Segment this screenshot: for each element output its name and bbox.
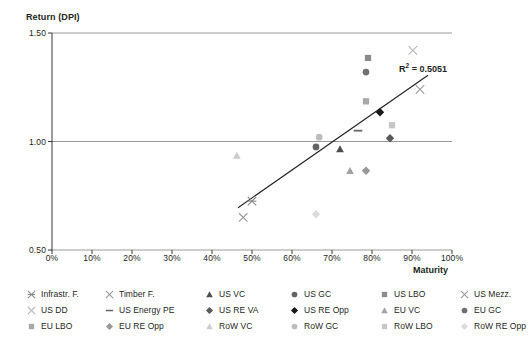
legend-marker-square-icon [379,289,390,300]
data-point-row-lbo [389,122,395,128]
r-squared-annotation: R2 = 0.5051 [399,64,447,74]
legend-item-eu-lbo[interactable]: EU LBO [26,321,104,332]
legend-item-row-gc[interactable]: RoW GC [289,321,379,332]
legend-item-us-re-va[interactable]: US RE VA [204,305,289,316]
legend-item-eu-vc[interactable]: EU VC [379,305,459,316]
data-point-us-vc [336,145,344,152]
legend-label: Timber F. [119,289,155,299]
legend-marker-diamond-icon [204,305,215,316]
legend-label: US GC [304,289,331,299]
legend-label: US VC [219,289,245,299]
legend-label: EU RE Opp [119,321,164,331]
legend-marker-diamond-icon [104,321,115,332]
legend-item-us-vc[interactable]: US VC [204,289,289,300]
legend-item-row-lbo[interactable]: RoW LBO [379,321,459,332]
legend-item-us-mezz[interactable]: US Mezz. [459,289,531,300]
legend-item-us-lbo[interactable]: US LBO [379,289,459,300]
data-point-row-vc [233,152,241,159]
data-point-us-gc [313,144,320,151]
data-point-eu-gc [363,69,370,76]
data-point-us-re-opp [376,108,384,116]
data-point-us-energy-pe [354,130,363,132]
legend-marker-square-icon [379,321,390,332]
legend-label: RoW GC [304,321,338,331]
legend-label: RoW RE Opp [474,321,526,331]
legend-label: Infrastr. F. [41,289,79,299]
legend-label: US LBO [394,289,425,299]
data-point-us-mezz [416,85,424,93]
legend-marker-triangle-icon [204,289,215,300]
legend-marker-triangle-icon [379,305,390,316]
data-point-eu-vc [346,167,354,174]
legend-label: EU VC [394,305,420,315]
legend-item-us-energy-pe[interactable]: US Energy PE [104,305,204,316]
legend-label: US Mezz. [474,289,511,299]
legend-marker-x-icon [104,289,115,300]
legend-marker-dash-icon [104,305,115,316]
legend-label: US Energy PE [119,305,174,315]
legend-marker-asterisk-icon [26,289,37,300]
legend-label: EU LBO [41,321,72,331]
legend-item-row-vc[interactable]: RoW VC [204,321,289,332]
legend-item-row-re-opp[interactable]: RoW RE Opp [459,321,531,332]
legend-marker-x-icon [459,289,470,300]
data-point-eu-lbo [363,98,369,104]
legend-label: US RE Opp [304,305,349,315]
r-squared-value: = 0.5051 [409,64,447,74]
legend-label: EU GC [474,305,501,315]
data-point-row-re-opp [312,210,320,218]
chart-legend: Infrastr. F.Timber F.US VCUS GCUS LBOUS … [26,286,496,334]
legend-marker-triangle-icon [204,321,215,332]
legend-marker-diamond-icon [459,321,470,332]
legend-item-us-re-opp[interactable]: US RE Opp [289,305,379,316]
legend-marker-circle-icon [459,305,470,316]
legend-marker-x-icon [26,305,37,316]
data-point-timber-f [239,213,247,221]
legend-item-us-dd[interactable]: US DD [26,305,104,316]
legend-marker-circle-icon [289,321,300,332]
legend-marker-circle-icon [289,289,300,300]
legend-item-eu-re-opp[interactable]: EU RE Opp [104,321,204,332]
data-point-us-lbo [365,55,371,61]
legend-item-us-gc[interactable]: US GC [289,289,379,300]
data-point-us-dd [409,46,417,54]
legend-item-infrastr-f[interactable]: Infrastr. F. [26,289,104,300]
legend-item-timber-f[interactable]: Timber F. [104,289,204,300]
legend-label: US RE VA [219,305,258,315]
legend-label: US DD [41,305,68,315]
legend-label: RoW VC [219,321,252,331]
data-point-eu-re-opp [362,167,370,175]
legend-marker-square-icon [26,321,37,332]
legend-marker-diamond-icon [289,305,300,316]
legend-item-eu-gc[interactable]: EU GC [459,305,531,316]
data-point-row-gc [316,134,323,141]
legend-label: RoW LBO [394,321,433,331]
